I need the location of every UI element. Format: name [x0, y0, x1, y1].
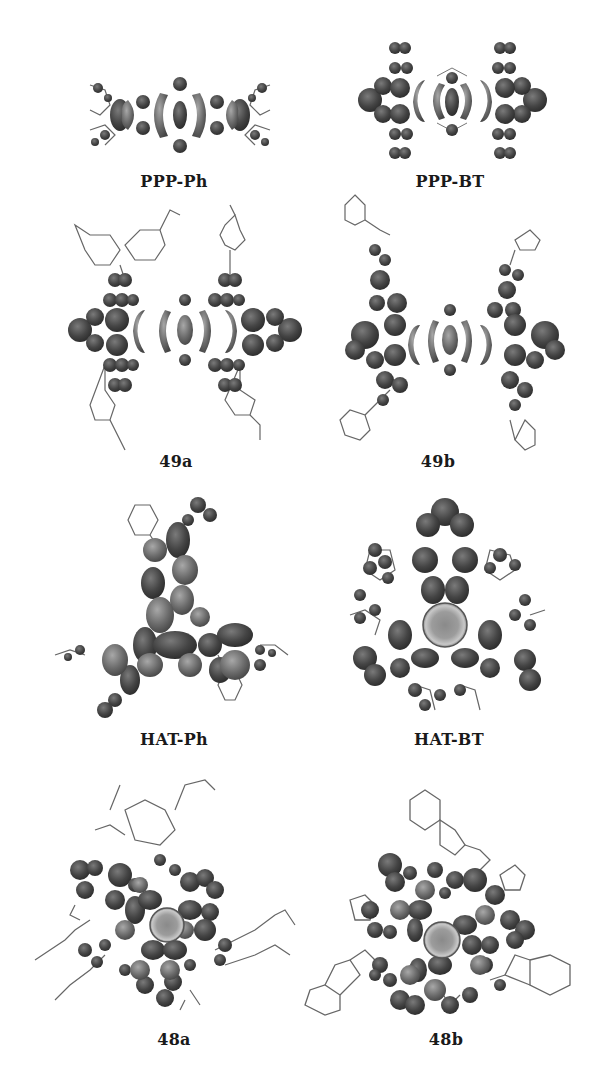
label-48b: 48b	[429, 1030, 463, 1049]
central-ring-orbital	[424, 922, 460, 958]
molecule-49b-orbital	[335, 185, 575, 455]
label-49b: 49b	[421, 452, 455, 471]
panel-49a	[65, 205, 305, 450]
label-hat-bt: HAT-BT	[414, 730, 484, 749]
panel-49b	[335, 185, 575, 455]
molecule-49a-orbital	[65, 205, 305, 450]
molecule-ppp-bt-orbital	[355, 38, 550, 163]
panel-hat-ph	[50, 495, 295, 720]
panel-hat-bt	[340, 500, 555, 715]
molecule-hat-bt-orbital	[340, 500, 555, 715]
panel-ppp-bt	[355, 38, 550, 163]
label-48a: 48a	[157, 1030, 191, 1049]
central-ring-orbital	[423, 603, 467, 647]
molecule-hat-ph-orbital	[50, 495, 295, 720]
molecule-48a-orbital	[25, 770, 300, 1020]
panel-ppp-ph	[80, 60, 280, 160]
panel-48a	[25, 770, 300, 1020]
label-hat-ph: HAT-Ph	[140, 730, 208, 749]
molecule-48b-orbital	[300, 760, 590, 1020]
molecule-ppp-ph-orbital	[80, 60, 280, 160]
label-ppp-ph: PPP-Ph	[140, 172, 207, 191]
panel-48b	[300, 760, 590, 1020]
central-ring-orbital	[150, 908, 184, 942]
label-49a: 49a	[159, 452, 193, 471]
